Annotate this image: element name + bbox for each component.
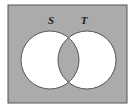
venn-diagram: S T — [0, 0, 134, 111]
set-s-label: S — [48, 14, 54, 26]
